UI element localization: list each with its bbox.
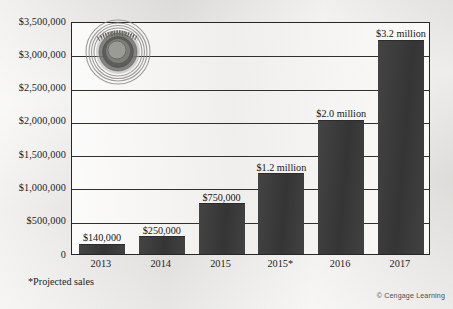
bar-value-label: $250,000: [124, 225, 200, 236]
plot-area: $140,000 $250,000 $750,000 $1.2 million …: [71, 22, 430, 255]
bar-2015-projected[interactable]: [258, 173, 304, 254]
y-axis-tick-label: $3,000,000: [0, 49, 66, 60]
bar-value-label: $2.0 million: [303, 108, 379, 119]
x-axis-tick-label: 2015: [191, 258, 251, 269]
copyright-notice: © Cengage Learning: [377, 292, 445, 300]
y-axis-tick-label: $1,500,000: [0, 149, 66, 160]
bar-2017[interactable]: [378, 40, 424, 254]
bar-slot: $1.2 million: [251, 21, 311, 254]
bar-value-label: $3.2 million: [363, 28, 439, 39]
y-axis-tick-label: $3,500,000: [0, 16, 66, 27]
y-axis-tick-label: $500,000: [0, 215, 66, 226]
footnote-projected-sales: *Projected sales: [28, 276, 94, 287]
bar-2016[interactable]: [318, 120, 364, 254]
bar-value-label: $1.2 million: [243, 162, 319, 173]
y-axis: $3,500,000 $3,000,000 $2,500,000 $2,000,…: [0, 0, 66, 309]
bar-2015[interactable]: [199, 203, 245, 254]
bar-slot: $3.2 million: [371, 21, 431, 254]
y-axis-tick-label: $2,500,000: [0, 82, 66, 93]
bar-value-label: $750,000: [184, 192, 260, 203]
x-axis-tick-label: 2013: [71, 258, 131, 269]
x-axis-tick-label: 2016: [310, 258, 370, 269]
y-axis-tick-label: $2,000,000: [0, 115, 66, 126]
bar-2013[interactable]: [79, 244, 125, 254]
y-axis-tick-label: $1,000,000: [0, 182, 66, 193]
x-axis-tick-label: 2017: [370, 258, 430, 269]
bar-slot: $250,000: [132, 21, 192, 254]
y-axis-tick-label: 0: [0, 249, 66, 260]
bar-slot: $2.0 million: [311, 21, 371, 254]
bar-slot: $750,000: [192, 21, 252, 254]
x-axis: 2013 2014 2015 2015* 2016 2017: [71, 258, 430, 276]
x-axis-tick-label: 2015*: [250, 258, 310, 269]
x-axis-tick-label: 2014: [131, 258, 191, 269]
chart-page: $3,500,000 $3,000,000 $2,500,000 $2,000,…: [0, 0, 453, 309]
bar-2014[interactable]: [139, 236, 185, 254]
bar-slot: $140,000: [72, 21, 132, 254]
